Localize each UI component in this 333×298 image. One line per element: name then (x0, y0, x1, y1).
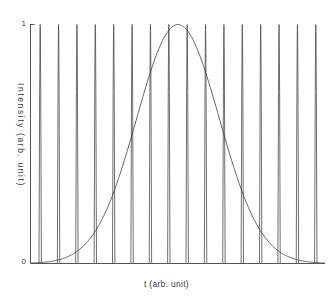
x-axis-label: t (arb. unit) (0, 279, 333, 289)
figure-background (0, 0, 333, 298)
y-axis-tick-label-bottom: 0 (12, 257, 26, 266)
chart-figure: 1 0 Intensity (arb. unit) t (arb. unit) (0, 0, 333, 298)
y-axis-tick-label-top: 1 (12, 19, 26, 28)
plot-canvas (0, 0, 333, 298)
